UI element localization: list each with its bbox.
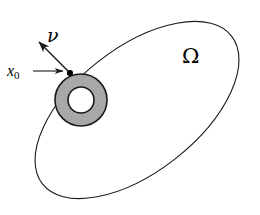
tangency-point-marker [67, 70, 73, 76]
annulus-inner-circle [68, 87, 94, 113]
normal-vector-arrow [39, 42, 70, 73]
point-label-subscript: 0 [14, 69, 20, 81]
domain-boundary-ellipse [4, 0, 260, 215]
domain-label-omega: Ω [182, 46, 199, 67]
normal-vector-label-nu: ν [47, 26, 59, 45]
diagram-svg [0, 0, 260, 215]
figure-canvas: Ω ν x0 [0, 0, 260, 215]
point-label-x0: x0 [7, 63, 20, 81]
